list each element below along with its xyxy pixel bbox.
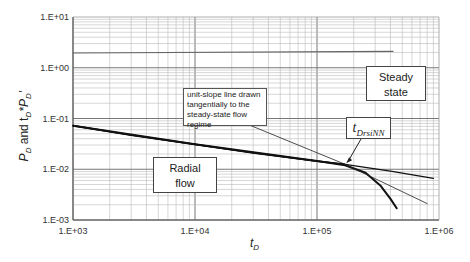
steady-line-2: state — [367, 85, 425, 100]
radial-line-2: flow — [154, 176, 216, 191]
unit-slope-note: unit-slope line drawn tangentially to th… — [183, 88, 267, 126]
y-axis-label: PD and tD*PD' — [17, 56, 33, 196]
radial-flow-label: Radial flow — [153, 157, 217, 193]
steady-state-label: Steady state — [366, 66, 426, 101]
x-axis-label: tD — [250, 236, 259, 252]
steady-line-1: Steady — [367, 70, 425, 85]
svg-text:1.E+03: 1.E+03 — [59, 226, 88, 236]
svg-text:1.E+04: 1.E+04 — [181, 226, 210, 236]
log-log-chart: 1.E+031.E+041.E+051.E+061.E+011.E+001.E-… — [0, 0, 470, 262]
svg-text:1.E-02: 1.E-02 — [42, 164, 69, 174]
radial-line-1: Radial — [154, 161, 216, 176]
tdrsinn-label: tDrsiNN — [346, 117, 391, 139]
svg-text:1.E-01: 1.E-01 — [42, 114, 69, 124]
svg-text:1.E-03: 1.E-03 — [42, 215, 69, 225]
svg-text:1.E+01: 1.E+01 — [40, 12, 69, 22]
svg-text:1.E+05: 1.E+05 — [303, 226, 332, 236]
svg-text:1.E+00: 1.E+00 — [40, 63, 69, 73]
svg-text:1.E+06: 1.E+06 — [425, 226, 454, 236]
